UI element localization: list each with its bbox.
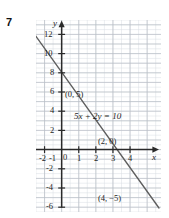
y-tick-neg2: -2 bbox=[46, 164, 53, 173]
y-tick-10: 10 bbox=[44, 49, 53, 58]
x-tick-0: 0 bbox=[63, 153, 67, 162]
x-tick-3: 3 bbox=[111, 154, 115, 163]
graph-figure: 7 bbox=[0, 0, 169, 218]
problem-number: 7 bbox=[6, 17, 12, 28]
point-label-2-0: (2, 0) bbox=[98, 137, 116, 146]
point-label-0-5: (0, 5) bbox=[65, 90, 83, 99]
point-label-4-neg5: (4, −5) bbox=[98, 194, 121, 203]
y-tick-2: 2 bbox=[50, 126, 54, 135]
x-tick-2: 2 bbox=[94, 154, 98, 163]
y-tick-8: 8 bbox=[50, 68, 54, 77]
x-tick-4: 4 bbox=[128, 154, 132, 163]
y-tick-neg6: -6 bbox=[46, 202, 53, 211]
y-tick-6: 6 bbox=[50, 87, 54, 96]
y-tick-4: 4 bbox=[50, 106, 54, 115]
y-axis-label: y bbox=[53, 19, 57, 28]
x-tick-neg2: -2 bbox=[39, 154, 46, 163]
coordinate-plane: y x 12 10 8 6 4 2 -2 -4 -6 -2 -1 0 1 2 3… bbox=[36, 20, 161, 212]
equation-label: 5x + 2y = 10 bbox=[74, 112, 121, 121]
y-tick-neg4: -4 bbox=[46, 183, 53, 192]
x-tick-1: 1 bbox=[77, 154, 81, 163]
x-axis-label: x bbox=[152, 153, 156, 162]
y-axis-arrow bbox=[59, 21, 65, 28]
x-tick-neg1: -1 bbox=[49, 154, 56, 163]
y-tick-12: 12 bbox=[44, 30, 53, 39]
